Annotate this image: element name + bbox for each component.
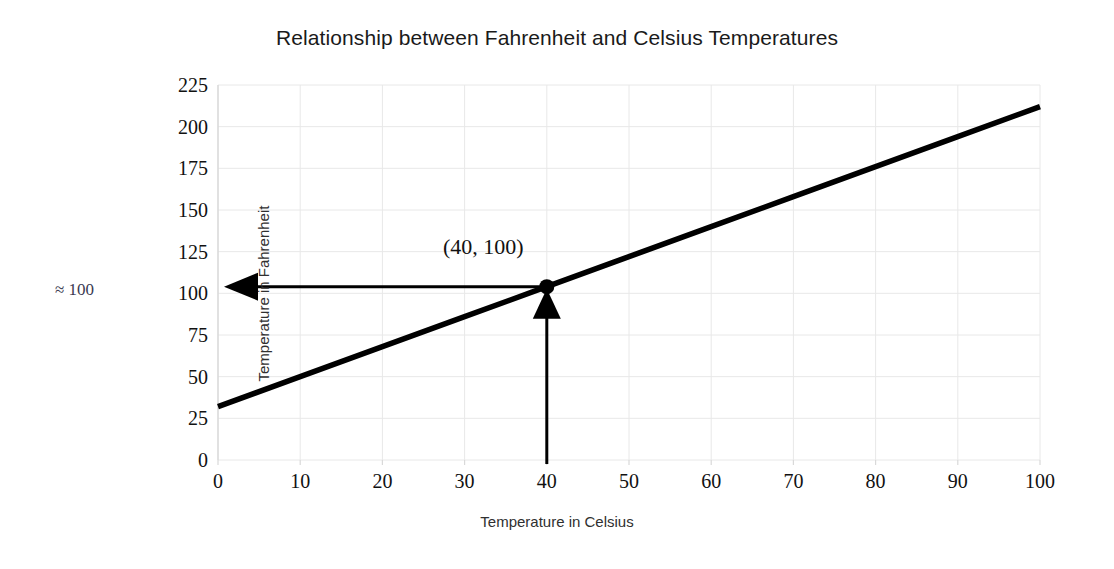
- x-tick-label: 20: [347, 470, 417, 493]
- y-tick-label: 50: [148, 365, 208, 388]
- gridlines-group: [218, 85, 1040, 460]
- x-tick-label: 60: [676, 470, 746, 493]
- x-tick-label: 10: [265, 470, 335, 493]
- y-tick-label: 125: [148, 240, 208, 263]
- highlighted-point-marker: [539, 279, 554, 294]
- x-tick-label: 40: [512, 470, 582, 493]
- x-tick-label: 0: [183, 470, 253, 493]
- chart-container: Relationship between Fahrenheit and Cels…: [0, 0, 1114, 569]
- x-tick-label: 70: [758, 470, 828, 493]
- y-axis-outside-note: ≈ 100: [55, 280, 94, 300]
- x-tick-label: 80: [841, 470, 911, 493]
- y-axis-title: Temperature in Fahrenheit: [255, 144, 272, 444]
- y-tick-label: 100: [148, 282, 208, 305]
- highlighted-point-label: (40, 100): [443, 234, 524, 260]
- y-tick-label: 0: [148, 449, 208, 472]
- y-tick-label: 175: [148, 157, 208, 180]
- y-tick-label: 75: [148, 324, 208, 347]
- y-tick-label: 200: [148, 115, 208, 138]
- x-tick-label: 100: [1005, 470, 1075, 493]
- y-tick-label: 25: [148, 407, 208, 430]
- x-tick-label: 90: [923, 470, 993, 493]
- x-tick-label: 30: [430, 470, 500, 493]
- x-tick-label: 50: [594, 470, 664, 493]
- horizontal-guide-arrow-head: [224, 273, 258, 301]
- y-tick-label: 225: [148, 74, 208, 97]
- x-axis-title: Temperature in Celsius: [0, 513, 1114, 530]
- y-tick-label: 150: [148, 199, 208, 222]
- x-tick-marks-group: [218, 460, 1040, 465]
